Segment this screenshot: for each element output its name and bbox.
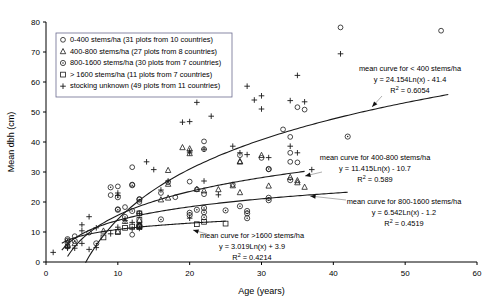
point-open-circle [295, 105, 300, 110]
annotation-equation: y = 24.154Ln(x) - 41.4 [374, 75, 447, 84]
x-tick-label: 50 [401, 269, 410, 278]
point-dotted-circle-center [289, 179, 291, 181]
chart-canvas: 010203040506070800102030405060Age (years… [0, 0, 491, 306]
point-dotted-circle-center [110, 187, 112, 189]
point-open-circle [123, 205, 128, 210]
annotation-lt400: mean curve for < 400 stems/hay = 24.154L… [359, 64, 462, 95]
point-dotted-circle-center [203, 211, 205, 213]
y-tick-label: 20 [31, 198, 40, 207]
annotation-800to1600: mean curve for 800-1600 stems/hay = 6.54… [347, 197, 463, 228]
point-open-circle [187, 179, 192, 184]
point-open-circle [108, 193, 113, 198]
legend: 0-400 stems/ha (31 plots from 10 countri… [56, 33, 232, 97]
leader-arrow-gt1600 [193, 229, 199, 233]
point-open-circle [295, 160, 300, 165]
point-dotted-circle-center [225, 210, 227, 212]
y-tick-label: 40 [31, 138, 40, 147]
legend-item-label: > 1600 stems/ha (11 plots from 7 countri… [70, 70, 212, 79]
point-open-circle [288, 150, 293, 155]
scatter-chart: 010203040506070800102030405060Age (years… [0, 0, 491, 306]
x-tick-label: 30 [257, 269, 266, 278]
y-tick-label: 60 [31, 78, 40, 87]
legend-item-1: 400-800 stems/ha (27 plots from 8 countr… [60, 47, 217, 56]
annotation-r-squared: R2 = 0.4214 [232, 252, 271, 262]
annotation-400to800: mean curve for 400-800 stems/hay = 11.41… [320, 153, 431, 184]
point-dotted-circle-center [74, 240, 76, 242]
point-open-square [123, 225, 128, 230]
point-open-circle [130, 232, 135, 237]
annotation-r-squared: R2 = 0.4519 [384, 218, 423, 228]
point-open-triangle [259, 152, 264, 157]
annotation-label: mean curve for < 400 stems/ha [359, 64, 462, 73]
legend-item-label: stocking unknown (49 plots from 11 count… [70, 81, 220, 90]
point-open-triangle [266, 183, 271, 188]
point-dotted-circle-center [246, 213, 248, 215]
point-open-circle [288, 159, 293, 164]
point-open-circle [338, 25, 343, 30]
point-open-triangle [237, 190, 242, 195]
point-dotted-circle-center [246, 217, 248, 219]
legend-item-label: 400-800 stems/ha (27 plots from 8 countr… [70, 47, 217, 56]
point-dotted-circle-center [62, 62, 64, 64]
point-dotted-circle-center [268, 199, 270, 201]
point-open-circle [281, 127, 286, 132]
x-tick-label: 20 [185, 269, 194, 278]
point-open-circle [302, 107, 307, 112]
legend-item-0: 0-400 stems/ha (31 plots from 10 countri… [61, 35, 213, 44]
point-open-triangle [302, 184, 307, 189]
leader-arrow-400to800 [305, 173, 311, 177]
point-dotted-circle-center [347, 136, 349, 138]
y-tick-label: 30 [31, 168, 40, 177]
legend-item-label: 800-1600 stems/ha (30 plots from 7 count… [70, 58, 221, 67]
point-dotted-circle-center [131, 184, 133, 186]
x-tick-label: 40 [329, 269, 338, 278]
point-dotted-circle-center [203, 207, 205, 209]
y-tick-label: 80 [31, 18, 40, 27]
legend-item-3: > 1600 stems/ha (11 plots from 7 countri… [61, 70, 213, 79]
annotation-r-squared: R2 = 0.589 [357, 174, 392, 184]
annotation-r-squared: R2 = 0.6054 [390, 85, 429, 95]
y-tick-label: 70 [31, 48, 40, 57]
point-open-triangle [180, 145, 185, 150]
point-dotted-circle-center [196, 209, 198, 211]
x-tick-label: 0 [44, 269, 49, 278]
point-dotted-circle-center [131, 210, 133, 212]
annotation-equation: y = 11.415Ln(x) - 10.7 [339, 164, 411, 173]
legend-item-4: stocking unknown (49 plots from 11 count… [60, 81, 220, 90]
curve-annotations: mean curve for < 400 stems/hay = 24.154L… [200, 64, 462, 262]
point-dotted-circle-center [268, 168, 270, 170]
point-open-circle [288, 135, 293, 140]
y-tick-label: 0 [36, 258, 41, 267]
point-open-triangle [165, 167, 170, 172]
annotation-equation: y = 6.542Ln(x) - 1.2 [372, 208, 436, 217]
point-open-triangle [216, 187, 221, 192]
point-open-circle [202, 139, 207, 144]
point-dotted-circle-center [160, 219, 162, 221]
annotation-label: mean curve for 800-1600 stems/ha [347, 197, 463, 206]
x-axis-title: Age (years) [238, 286, 285, 296]
annotation-label: mean curve for 400-800 stems/ha [320, 153, 431, 162]
x-tick-label: 10 [113, 269, 122, 278]
annotation-gt1600: mean curve for >1600 stems/hay = 3.019Ln… [200, 231, 305, 262]
point-open-circle [439, 28, 444, 33]
trend-curve-800to1600 [62, 192, 348, 250]
y-tick-label: 50 [31, 108, 40, 117]
point-open-square [223, 221, 228, 226]
legend-item-2: 800-1600 stems/ha (30 plots from 7 count… [60, 58, 221, 67]
annotation-label: mean curve for >1600 stems/ha [200, 231, 305, 240]
point-open-circle [115, 184, 120, 189]
point-dotted-circle-center [239, 205, 241, 207]
point-open-circle [130, 165, 135, 170]
point-dotted-circle-center [203, 217, 205, 219]
x-tick-label: 60 [473, 269, 482, 278]
legend-item-label: 0-400 stems/ha (31 plots from 10 countri… [70, 35, 213, 44]
y-tick-label: 10 [31, 228, 40, 237]
point-dotted-circle-center [117, 209, 119, 211]
point-dotted-circle-center [124, 216, 126, 218]
annotation-equation: y = 3.019Ln(x) + 3.9 [219, 242, 285, 251]
y-axis-title: Mean dbh (cm) [6, 112, 16, 173]
